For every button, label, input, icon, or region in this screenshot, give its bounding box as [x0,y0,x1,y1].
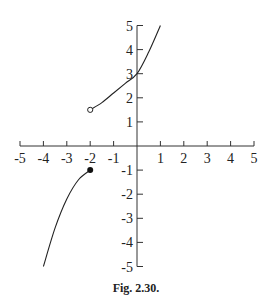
y-tick-label: 1 [126,115,133,130]
x-tick-label: 2 [180,151,187,166]
lower-branch-curve [43,170,90,266]
open-circle-marker [88,107,93,112]
axes [20,26,254,267]
y-tick-label: 5 [126,19,133,34]
y-tick-label: -5 [121,260,133,275]
figure-caption: Fig. 2.30. [113,281,160,295]
x-tick-label: -2 [84,151,96,166]
y-tick-label: 3 [126,67,133,82]
x-tick-label: 5 [251,151,258,166]
y-tick-label: -1 [121,163,133,178]
y-tick-label: -3 [121,211,133,226]
y-tick-label: -2 [121,187,133,202]
x-tick-label: -1 [108,151,120,166]
x-tick-label: -3 [61,151,73,166]
x-tick-label: -5 [14,151,26,166]
y-tick-label: 4 [126,43,133,58]
figure-2-30: -5-4-3-2-112345 -5-4-3-2-112345 Fig. 2.3… [0,0,270,303]
x-tick-label: 1 [157,151,164,166]
y-tick-label: 2 [126,91,133,106]
x-tick-labels: -5-4-3-2-112345 [14,151,257,166]
closed-dot-marker [87,167,93,173]
y-tick-label: -4 [121,235,133,250]
x-tick-label: -4 [38,151,50,166]
x-tick-label: 3 [204,151,211,166]
x-tick-label: 4 [227,151,234,166]
